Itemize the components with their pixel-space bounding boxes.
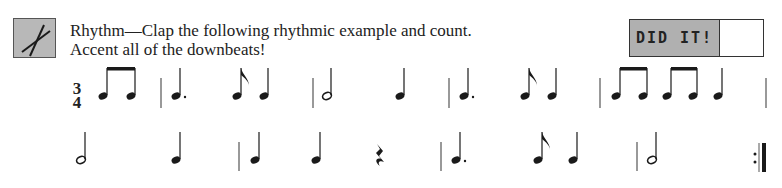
measure-8 [450,132,578,165]
quarter-rest [376,144,384,166]
measure-6 [75,132,181,165]
measure-5 [610,67,723,101]
rhythm-notation [0,0,782,188]
row-2 [75,132,766,172]
measure-4 [458,68,557,101]
measure-3 [321,68,405,101]
measure-2 [170,68,269,101]
measure-9 [646,132,657,165]
measure-7 [249,132,384,166]
repeat-end-barline [754,143,767,172]
measure-1 [97,67,136,101]
row-1 [97,67,766,108]
